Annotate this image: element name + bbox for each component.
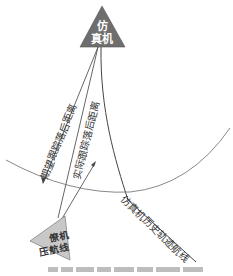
simulator-label-1: 仿 — [97, 19, 108, 33]
history-track-label: 仿真机历史轨迹航线 — [119, 193, 192, 264]
simulator-node: 仿 真机 — [80, 6, 125, 47]
simulator-label-2: 真机 — [91, 32, 113, 46]
diagram-canvas: 仿 真机 僚机 压航线 期望跟踪落后距离 实际跟踪落后距离 仿真机历史轨迹航线 — [0, 0, 233, 276]
wingman-node: 僚机 压航线 — [30, 216, 70, 260]
range-arc — [6, 128, 230, 192]
actual-distance-arrow-icon — [91, 161, 96, 167]
figure-caption-cropped — [48, 267, 224, 273]
